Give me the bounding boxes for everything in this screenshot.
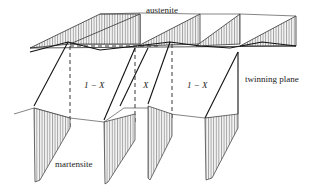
fraction-label-1: 1 − X bbox=[84, 80, 105, 90]
austenite-label: austenite bbox=[146, 5, 178, 15]
twinning-plane-label: twinning plane bbox=[245, 74, 299, 84]
martensite-hatching bbox=[34, 106, 238, 184]
diagram-graphic bbox=[0, 0, 315, 192]
twinning-diagram: austenite twinning plane martensite 1 − … bbox=[0, 0, 315, 192]
fraction-label-x: X bbox=[143, 80, 149, 90]
martensite-label: martensite bbox=[55, 159, 93, 169]
fraction-label-2: 1 − X bbox=[187, 80, 208, 90]
